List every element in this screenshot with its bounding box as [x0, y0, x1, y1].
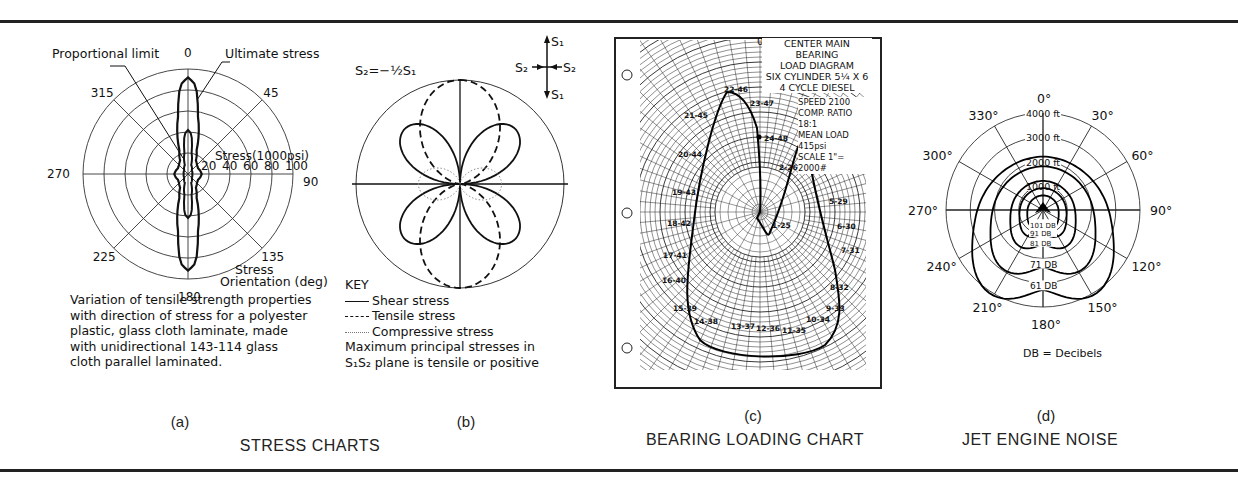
equation-label: S₂=−½S₁	[355, 63, 416, 78]
bearing-point-label: 21-45	[684, 111, 708, 120]
key-item-tensile: Tensile stress	[345, 308, 625, 324]
jet-noise-title: JET ENGINE NOISE	[940, 431, 1140, 449]
bearing-spoke	[797, 238, 957, 350]
radial-tick-label: 20	[201, 159, 216, 173]
stress-element-diagram: S₁ S₁ S₂ S₂	[515, 34, 576, 102]
bearing-spoke	[606, 28, 731, 177]
bearing-point-label: 17-41	[663, 251, 687, 260]
key-label: Compressive stress	[372, 324, 494, 339]
caption-line: cloth parallel laminated.	[70, 354, 350, 370]
bearing-spec: SPEED 2100	[798, 97, 874, 108]
bearing-point-label: 13-37	[731, 322, 755, 331]
contour-label: 81 DB	[1030, 240, 1052, 248]
bearing-spoke	[718, 0, 752, 168]
bearing-point-label: 6-30	[837, 222, 856, 231]
angle-tick-label: 30°	[1092, 108, 1114, 123]
bearing-spoke	[640, 4, 738, 173]
angle-tick-label: 330°	[969, 108, 999, 123]
proportional-limit-label-1: Proportional limit	[52, 46, 159, 61]
decibel-legend-note: DB = Decibels	[1023, 347, 1102, 360]
panel-label-a: (a)	[160, 413, 200, 430]
bearing-point-label: 14-38	[694, 317, 718, 326]
contour-label: 61 DB	[1030, 281, 1057, 291]
s1-bottom-label: S₁	[551, 87, 564, 102]
key-item-shear: Shear stress	[345, 293, 625, 309]
bearing-point-label: 8-32	[830, 283, 849, 292]
bearing-title-line: 4 CYCLE DIESEL	[762, 82, 872, 93]
bearing-spoke	[779, 253, 861, 430]
bearing-point-label: 1-25	[772, 221, 791, 230]
s2-right-label: S₂	[563, 60, 576, 75]
bearing-point-label: 7-31	[841, 246, 860, 255]
bearing-grid	[520, 0, 1000, 452]
key-label: Shear stress	[372, 293, 449, 308]
angle-tick-label: 210°	[973, 300, 1003, 315]
bearing-point-label: 9-33	[826, 304, 845, 313]
bearing-point-label: 19-43	[672, 188, 696, 197]
chart-a-caption: Variation of tensile strength properties…	[70, 292, 350, 370]
caption-line: plastic, glass cloth laminate, made	[70, 323, 350, 339]
angle-tick-label: 300°	[923, 148, 953, 163]
bearing-spoke	[552, 92, 721, 190]
solid-line-swatch	[345, 301, 369, 302]
jet-noise-chart: 1000 ft2000 ft3000 ft4000 ft0°30°60°90°1…	[908, 91, 1172, 332]
bearing-point-label: 2-26	[779, 163, 798, 172]
bearing-point-label: 20-44	[678, 150, 702, 159]
bearing-spoke	[804, 220, 996, 254]
dashed-line-swatch	[345, 316, 369, 317]
angle-tick-label: 120°	[1131, 259, 1161, 274]
bearing-spec: SCALE 1"= 2000#	[798, 152, 874, 174]
bearing-point-label: 16-40	[662, 276, 686, 285]
chart-b-key: KEY Shear stress Tensile stress Compress…	[345, 277, 625, 370]
angle-tick-label: 315	[91, 86, 114, 100]
caption-line: with unidirectional 143-114 glass	[70, 339, 350, 355]
panel-label-c: (c)	[733, 407, 773, 424]
bearing-title-block: CENTER MAIN BEARING LOAD DIAGRAM SIX CYL…	[762, 38, 872, 93]
bearing-point-marker	[757, 135, 762, 140]
contour-label: 71 DB	[1030, 260, 1057, 270]
punch-hole	[622, 70, 632, 80]
bearing-title-line: SIX CYLINDER 5¼ X 6	[762, 71, 872, 82]
dotted-line-swatch	[345, 332, 369, 333]
radial-axis-title: Stress(1000psi)	[215, 149, 309, 163]
bearing-point-label: 11-35	[782, 326, 806, 335]
s2-left-label: S₂	[515, 60, 528, 75]
angle-tick-label: 240°	[927, 259, 957, 274]
angle-tick-label: 90	[303, 175, 318, 189]
panel-label-d: (d)	[1026, 407, 1066, 424]
bearing-point-label: 10-34	[806, 315, 830, 324]
angle-tick-label: 0°	[1037, 91, 1051, 106]
angle-tick-label: 0	[184, 46, 192, 60]
bearing-point-label: 12-36	[756, 324, 780, 333]
angle-tick-label: 90°	[1150, 203, 1172, 218]
s1-top-label: S₁	[551, 34, 564, 49]
angle-axis-title-2: Orientation (deg)	[220, 274, 328, 289]
angle-tick-label: 45	[263, 86, 278, 100]
bearing-chart: 22-4621-4520-4419-4318-4217-4116-4015-39…	[520, 0, 1000, 452]
bearing-point-label: 5-29	[829, 197, 848, 206]
panel-label-b: (b)	[446, 413, 486, 430]
key-item-compressive: Compressive stress	[345, 324, 625, 340]
bearing-title-line: LOAD DIAGRAM	[762, 60, 872, 71]
caption-line: with direction of stress for a polyester	[70, 308, 350, 324]
proportional-limit-leader	[110, 66, 183, 158]
bearing-chart-title: BEARING LOADING CHART	[640, 431, 870, 449]
bearing-point-label: 23-47	[750, 99, 774, 108]
caption-line: Variation of tensile strength properties	[70, 292, 350, 308]
stress-charts-title: STRESS CHARTS	[200, 437, 420, 455]
stress-chart-b	[352, 80, 568, 288]
bearing-spec: COMP. RATIO 18:1	[798, 108, 874, 130]
key-note: Maximum principal stresses in	[345, 339, 625, 355]
contour-label: 101 DB	[1030, 222, 1056, 230]
angle-tick-label: 225	[93, 250, 116, 264]
angle-tick-label: 270	[47, 167, 70, 181]
key-note: S₁S₂ plane is tensile or positive	[345, 355, 625, 371]
bearing-point-label: 18-42	[667, 219, 691, 228]
bearing-point-label: 22-46	[724, 85, 748, 94]
bearing-spec: MEAN LOAD 415psi	[798, 130, 874, 152]
angle-tick-label: 270°	[908, 203, 938, 218]
contour-label: 91 DB	[1030, 230, 1052, 238]
key-title: KEY	[345, 277, 625, 293]
punch-hole	[622, 208, 632, 218]
bearing-point-label: 15-39	[673, 304, 697, 313]
